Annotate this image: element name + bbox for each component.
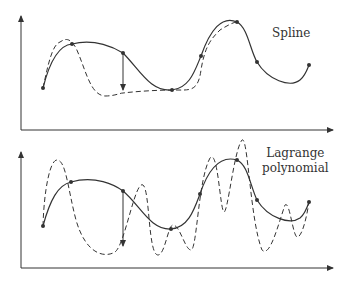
label-line: Spline <box>272 26 310 40</box>
lagrange-label: Lagrange polynomial <box>262 146 329 176</box>
dashed-curve <box>43 22 237 96</box>
label-line: Lagrange <box>262 146 329 161</box>
label-line: polynomial <box>262 161 329 176</box>
spline-label: Spline <box>272 26 310 41</box>
interpolation-diagram <box>0 0 355 284</box>
data-points <box>41 20 311 92</box>
solid-curve <box>43 20 309 90</box>
